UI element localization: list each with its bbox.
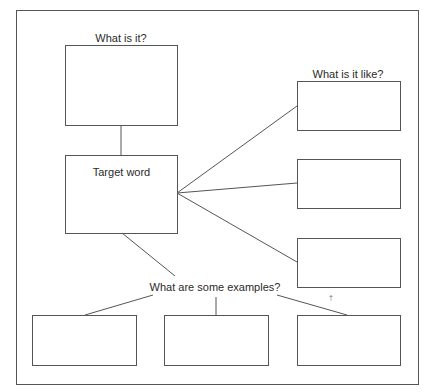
example-box-2[interactable]	[164, 315, 269, 366]
target-word-box[interactable]: Target word	[65, 155, 178, 234]
what-is-it-box[interactable]	[65, 45, 178, 126]
dagger-mark: †	[329, 294, 333, 301]
example-box-3[interactable]	[297, 315, 401, 366]
examples-label: What are some examples?	[150, 281, 281, 294]
what-is-it-like-box-3[interactable]	[297, 238, 401, 288]
connector-target-to-like-2	[177, 183, 297, 193]
what-is-it-like-box-1[interactable]	[297, 81, 401, 131]
connector-target-to-like-1	[177, 106, 297, 193]
what-is-it-like-box-2[interactable]	[297, 159, 401, 209]
example-box-1[interactable]	[32, 315, 137, 366]
what-is-it-label: What is it?	[95, 32, 146, 45]
connector-examples-to-box-1	[85, 295, 153, 315]
what-is-it-like-label: What is it like?	[313, 68, 384, 81]
connector-target-to-like-3	[177, 193, 297, 262]
connector-target-to-examples	[122, 233, 175, 276]
connector-examples-to-box-3	[277, 295, 347, 315]
target-word-text: Target word	[66, 166, 177, 179]
